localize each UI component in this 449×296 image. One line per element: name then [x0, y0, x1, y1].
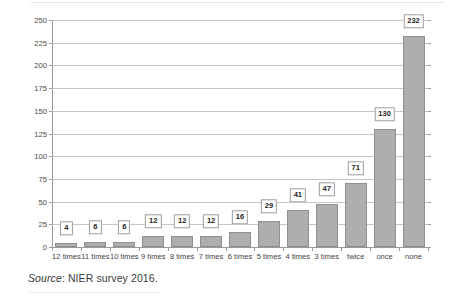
bar-group: 71 [341, 20, 370, 247]
x-axis-tick-label: 8 times [170, 252, 195, 261]
x-axis-tick-mark [312, 247, 313, 251]
y-axis-tick-label: 200 [34, 61, 47, 70]
bar-group: 232 [399, 20, 428, 247]
bar-value-label: 12 [174, 214, 190, 228]
bar-value-label: 130 [374, 107, 395, 121]
bar-value-label: 12 [145, 214, 161, 228]
bar-chart: 0255075100125150175200225250466121212162… [0, 0, 449, 266]
y-axis-tick-mark-right [428, 134, 431, 135]
x-axis-tick-mark [370, 247, 371, 251]
bar-group: 47 [312, 20, 341, 247]
bar[interactable] [258, 221, 280, 247]
bar[interactable] [345, 183, 367, 247]
bar-value-label: 6 [89, 220, 101, 234]
bar-group: 130 [370, 20, 399, 247]
x-axis-tick-label: 9 times [141, 252, 166, 261]
x-axis-tick-mark [81, 247, 82, 251]
bar[interactable] [142, 236, 164, 247]
bar-group: 16 [226, 20, 255, 247]
y-axis-tick-mark-right [428, 111, 431, 112]
bar[interactable] [403, 36, 425, 247]
x-axis-tick-label: 7 times [199, 252, 224, 261]
y-axis-tick-label: 25 [38, 220, 47, 229]
bar[interactable] [316, 204, 338, 247]
y-axis-tick-mark-right [428, 65, 431, 66]
x-axis-tick-mark [197, 247, 198, 251]
y-axis-tick-label: 125 [34, 129, 47, 138]
bar-value-label: 12 [203, 214, 219, 228]
bar-group: 6 [110, 20, 139, 247]
x-axis-tick-mark [254, 247, 255, 251]
bar-value-label: 4 [60, 222, 72, 236]
y-axis-tick-label: 225 [34, 38, 47, 47]
x-axis-tick-mark [52, 247, 53, 251]
bar[interactable] [55, 243, 77, 247]
bar-value-label: 6 [118, 220, 130, 234]
bar-value-label: 232 [403, 15, 424, 29]
y-axis-tick-mark-right [428, 43, 431, 44]
y-axis-tick-mark-right [428, 156, 431, 157]
x-axis-tick-mark [139, 247, 140, 251]
y-axis-tick-label: 150 [34, 106, 47, 115]
y-axis-tick-mark-right [428, 224, 431, 225]
bar-value-label: 71 [348, 161, 364, 175]
x-axis-tick-mark [341, 247, 342, 251]
bar-value-label: 47 [319, 183, 335, 197]
x-axis-tick-mark [110, 247, 111, 251]
x-axis-tick-label: 11 times [81, 252, 109, 261]
y-axis-tick-label: 50 [38, 197, 47, 206]
bar-group: 29 [254, 20, 283, 247]
bar[interactable] [84, 242, 106, 247]
x-axis-tick-label: 10 times [110, 252, 139, 261]
bar-group: 6 [81, 20, 110, 247]
page-bottom-edge-line [28, 292, 160, 293]
source-note: Source: NIER survey 2016. [28, 272, 158, 284]
bar-group: 12 [139, 20, 168, 247]
x-axis-tick-mark [283, 247, 284, 251]
source-text: NIER survey 2016. [68, 272, 158, 284]
y-axis-tick-mark-right [428, 88, 431, 89]
x-axis-tick-label: 5 times [257, 252, 282, 261]
chart-page: 0255075100125150175200225250466121212162… [0, 0, 449, 296]
bar[interactable] [171, 236, 193, 247]
x-axis-line [52, 247, 429, 248]
bar-value-label: 16 [232, 211, 248, 225]
y-axis-tick-label: 175 [34, 84, 47, 93]
bar-group: 12 [168, 20, 197, 247]
x-axis-tick-label: twice [347, 252, 364, 261]
y-axis-tick-label: 0 [43, 243, 47, 252]
bar[interactable] [374, 129, 396, 247]
x-axis-tick-label: 12 times [52, 252, 81, 261]
x-axis-tick-mark [399, 247, 400, 251]
bar-group: 12 [197, 20, 226, 247]
y-axis-tick-label: 100 [34, 152, 47, 161]
bar[interactable] [113, 242, 135, 247]
y-axis-tick-label: 250 [34, 16, 47, 25]
bar-value-label: 41 [290, 188, 306, 202]
y-axis-tick-label: 75 [38, 174, 47, 183]
bar[interactable] [229, 232, 251, 247]
y-axis-tick-mark-right [428, 202, 431, 203]
y-axis-tick-mark-right [428, 20, 431, 21]
bar-group: 4 [52, 20, 81, 247]
bar[interactable] [200, 236, 222, 247]
bar-group: 41 [283, 20, 312, 247]
x-axis-tick-label: 3 times [315, 252, 340, 261]
x-axis-tick-label: once [376, 252, 392, 261]
x-axis-tick-mark [226, 247, 227, 251]
bar[interactable] [287, 210, 309, 247]
x-axis-tick-label: none [405, 252, 422, 261]
x-axis-tick-label: 6 times [228, 252, 253, 261]
x-axis-tick-mark [168, 247, 169, 251]
x-axis-tick-mark [428, 247, 429, 251]
y-axis-tick-mark-right [428, 179, 431, 180]
bar-value-label: 29 [261, 199, 277, 213]
x-axis-tick-label: 4 times [286, 252, 311, 261]
plot-area: 0255075100125150175200225250466121212162… [52, 20, 428, 247]
source-label: Source [28, 272, 62, 284]
